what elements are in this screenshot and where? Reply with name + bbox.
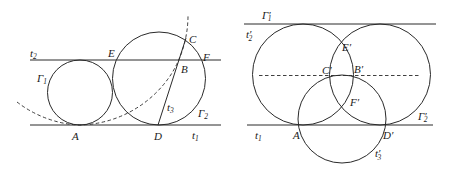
left-figure: t2 E C F B Γ1 t3 Γ2 A D t1 [17, 14, 221, 143]
circle-gamma1 [48, 60, 113, 125]
label-C-prime: C′ [322, 64, 332, 76]
label-t2-prime: t′2 [246, 28, 252, 43]
label-E: E [107, 47, 115, 59]
label-t3: t3 [167, 101, 174, 115]
label-t1-right: t1 [255, 129, 262, 143]
label-E-prime: E′ [341, 41, 352, 53]
circle-t2-prime [253, 24, 354, 125]
label-A-right: A [292, 129, 300, 141]
label-t3-prime: t′3 [375, 147, 381, 162]
inversion-diagram: t2 E C F B Γ1 t3 Γ2 A D t1 Γ′1 t′2 E′ C′… [0, 0, 449, 170]
label-F-prime: F′ [349, 96, 360, 108]
label-t2: t2 [30, 47, 37, 61]
label-gamma1: Γ1 [36, 72, 47, 86]
circle-gamma2 [113, 32, 206, 125]
label-B-prime: B′ [354, 63, 364, 75]
label-A: A [71, 130, 79, 142]
label-B: B [181, 63, 188, 75]
label-D: D [153, 130, 162, 142]
circle-t3-prime [298, 75, 386, 163]
label-C: C [189, 33, 197, 45]
right-figure: Γ′1 t′2 E′ C′ B′ F′ Γ′2 t1 A D′ t′3 [244, 9, 436, 163]
label-gamma2: Γ2 [197, 107, 208, 121]
label-D-prime: D′ [382, 129, 394, 141]
circle-gamma2-prime [330, 24, 431, 125]
label-gamma1-prime: Γ′1 [261, 9, 271, 23]
label-F: F [202, 51, 210, 63]
label-gamma2-prime: Γ′2 [417, 110, 428, 124]
label-t1: t1 [192, 129, 199, 143]
